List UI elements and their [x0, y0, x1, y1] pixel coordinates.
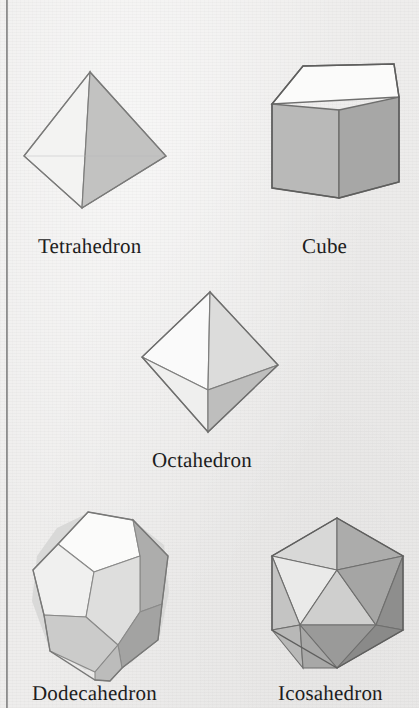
icosahedron-svg: [0, 0, 419, 708]
icosahedron-face-l1: [272, 625, 303, 668]
icosahedron-label: Icosahedron: [278, 681, 383, 705]
figure-page: Tetrahedron Cube Octahedron: [0, 0, 419, 708]
icosahedron-figure: [0, 0, 419, 708]
